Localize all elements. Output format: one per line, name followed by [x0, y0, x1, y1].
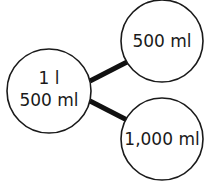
connector-whole-to-part-2 [90, 101, 127, 120]
part-node-1: 500 ml [121, 0, 203, 82]
part-1-label: 500 ml [132, 31, 191, 51]
whole-line-2: 500 ml [19, 90, 78, 110]
whole-line-1: 1 l [39, 68, 60, 88]
whole-node: 1 l 500 ml [7, 49, 91, 133]
part-2-label: 1,000 ml [124, 129, 199, 149]
part-node-2: 1,000 ml [121, 98, 203, 180]
connector-whole-to-part-1 [90, 62, 127, 81]
part-whole-diagram: 1 l 500 ml 500 ml 1,000 ml [0, 0, 208, 190]
